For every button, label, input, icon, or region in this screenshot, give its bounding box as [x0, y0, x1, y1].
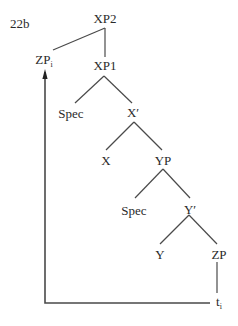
branch-xp2-zp-i — [53, 28, 105, 50]
branch-xbar-x — [106, 122, 134, 150]
node-label: YP — [155, 153, 172, 168]
node-label: Spec — [58, 106, 83, 121]
node-label: ZP — [35, 52, 50, 67]
node-label: Y′ — [184, 202, 196, 217]
branch-ybar-zp — [189, 215, 217, 244]
node-zp-i: ZPi — [35, 53, 52, 66]
node-label: XP1 — [93, 58, 116, 73]
node-xp1: XP1 — [93, 59, 116, 72]
node-yp: YP — [155, 154, 172, 167]
branch-xp1-spec1 — [75, 76, 104, 103]
node-t-i: ti — [216, 295, 222, 308]
node-label: XP2 — [93, 11, 116, 26]
branch-yp-ybar — [163, 169, 190, 198]
node-zp: ZP — [211, 248, 226, 261]
tree-edges — [0, 0, 238, 326]
branch-ybar-y — [160, 215, 189, 244]
node-xp2: XP2 — [93, 12, 116, 25]
figure-number: 22b — [10, 17, 30, 30]
tree-branches — [53, 28, 217, 293]
syntax-tree-diagram: 22b XP2ZPiXP1SpecX′XYPSpecY′YZPti — [0, 0, 238, 326]
arrowhead-icon — [42, 69, 47, 79]
node-label: X′ — [127, 105, 139, 120]
branch-yp-spec2 — [135, 169, 163, 198]
node-label: Y — [155, 247, 164, 262]
node-label: Spec — [121, 203, 146, 218]
branch-xbar-yp — [134, 122, 162, 150]
node-y: Y — [155, 248, 164, 261]
branch-xp1-xbar — [104, 76, 132, 103]
node-x: X — [101, 154, 110, 167]
node-label: ZP — [211, 247, 226, 262]
node-xbar: X′ — [127, 106, 139, 119]
node-subscript: i — [50, 60, 52, 69]
node-ybar: Y′ — [184, 203, 196, 216]
node-spec2: Spec — [121, 204, 146, 217]
node-spec1: Spec — [58, 107, 83, 120]
node-label: X — [101, 153, 110, 168]
node-subscript: i — [220, 302, 222, 311]
